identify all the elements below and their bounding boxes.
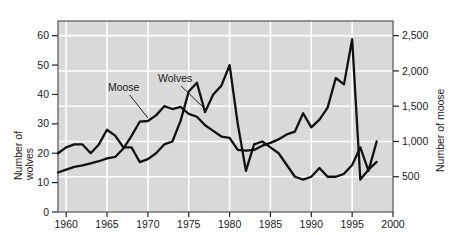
y-axis-right-tick-label: 2,500 — [402, 29, 428, 41]
y-axis-left-tick-label: 10 — [37, 176, 49, 188]
y-axis-right-title: Number of moose — [434, 88, 446, 172]
x-axis-tick-label: 1995 — [340, 218, 364, 230]
series-annotation-moose: Moose — [108, 81, 140, 93]
y-axis-left: 0102030405060 — [37, 29, 58, 217]
wolves-moose-line-chart: 196019651970197519801985199019952000 010… — [0, 0, 467, 235]
x-axis-tick-label: 2000 — [381, 218, 405, 230]
y-axis-left-tick-label: 20 — [37, 147, 49, 159]
y-axis-right-tick-label: 500 — [402, 170, 420, 182]
y-axis-left-tick-label: 50 — [37, 59, 49, 71]
x-axis: 196019651970197519801985199019952000 — [54, 212, 404, 230]
y-axis-right-tick-label: 1,500 — [402, 100, 428, 112]
y-axis-right-tick-label: 1,000 — [402, 135, 428, 147]
x-axis-tick-label: 1990 — [300, 218, 324, 230]
x-axis-tick-label: 1985 — [259, 218, 283, 230]
series-annotation-wolves: Wolves — [158, 72, 192, 84]
x-axis-tick-label: 1960 — [54, 218, 78, 230]
y-axis-left-title: Number of wolves — [12, 131, 35, 181]
x-axis-tick-label: 1970 — [136, 218, 160, 230]
y-axis-right: 5001,0001,5002,0002,500 — [393, 29, 428, 182]
chart-figure: 196019651970197519801985199019952000 010… — [0, 0, 467, 235]
y-axis-left-tick-label: 60 — [37, 29, 49, 41]
y-axis-right-tick-label: 2,000 — [402, 65, 428, 77]
y-axis-left-tick-label: 40 — [37, 88, 49, 100]
x-axis-tick-label: 1965 — [95, 218, 119, 230]
x-axis-tick-label: 1975 — [177, 218, 201, 230]
y-axis-left-tick-label: 0 — [43, 206, 49, 218]
plot-background — [58, 21, 393, 212]
x-axis-tick-label: 1980 — [218, 218, 242, 230]
y-axis-left-title-line2: wolves — [23, 148, 35, 181]
y-axis-left-tick-label: 30 — [37, 117, 49, 129]
